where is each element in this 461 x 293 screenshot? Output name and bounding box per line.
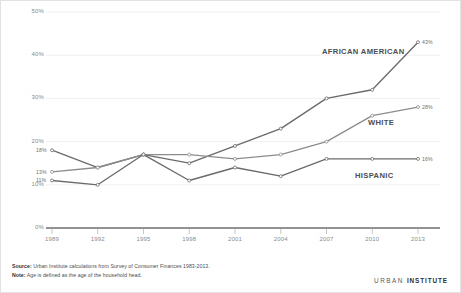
x-axis-tick-label: 1995 xyxy=(127,236,161,242)
data-point-marker xyxy=(279,127,282,130)
data-point-marker xyxy=(325,140,328,143)
x-axis-tick-label: 1989 xyxy=(35,236,69,242)
x-axis-tick-label: 2013 xyxy=(401,236,435,242)
data-point-marker xyxy=(371,114,374,117)
data-point-marker xyxy=(371,157,374,160)
source-text: Urban Institute calculations from Survey… xyxy=(32,263,210,269)
logo-urban-text: URBAN xyxy=(374,277,404,284)
series-start-value-label: 11% xyxy=(36,177,46,183)
data-point-marker xyxy=(325,157,328,160)
x-axis-tick-label: 2010 xyxy=(355,236,389,242)
data-point-marker xyxy=(188,162,191,165)
data-point-marker xyxy=(279,175,282,178)
y-axis-tick-label: 0% xyxy=(22,224,44,230)
data-point-marker xyxy=(325,97,328,100)
series-label-white: WHITE xyxy=(368,118,394,127)
note-label: Note: xyxy=(12,272,26,278)
series-end-value-label: 43% xyxy=(422,39,433,45)
chart-container: 0%10%20%30%40%50% 1989199219951998200120… xyxy=(0,0,461,293)
source-line: Source: Urban Institute calculations fro… xyxy=(12,262,342,271)
data-point-marker xyxy=(188,179,191,182)
x-axis-tick-label: 2007 xyxy=(310,236,344,242)
data-point-marker xyxy=(51,179,54,182)
y-axis-tick-label: 50% xyxy=(22,8,44,14)
data-point-marker xyxy=(417,106,420,109)
series-start-value-label: 18% xyxy=(36,147,47,153)
data-point-marker xyxy=(371,88,374,91)
x-axis-tick-label: 1998 xyxy=(172,236,206,242)
data-point-marker xyxy=(142,153,145,156)
data-point-marker xyxy=(96,183,99,186)
y-axis-tick-label: 20% xyxy=(22,138,44,144)
data-point-marker xyxy=(96,166,99,169)
x-axis-tick-label: 2001 xyxy=(218,236,252,242)
series-lines-group xyxy=(51,41,420,187)
x-axis-tick-label: 1992 xyxy=(81,236,115,242)
note-text: Age is defined as the age of the househo… xyxy=(26,272,142,278)
urban-institute-logo: URBAN INSTITUTE xyxy=(374,277,448,284)
x-axis-group xyxy=(52,229,418,234)
y-axis-tick-label: 40% xyxy=(22,51,44,57)
data-point-marker xyxy=(417,41,420,44)
series-line xyxy=(52,42,418,167)
data-point-marker xyxy=(234,166,237,169)
note-line: Note: Age is defined as the age of the h… xyxy=(12,271,342,280)
data-point-marker xyxy=(51,149,54,152)
data-point-marker xyxy=(188,153,191,156)
series-end-value-label: 16% xyxy=(422,156,433,162)
series-line xyxy=(52,107,418,172)
series-label-hispanic: HISPANIC xyxy=(355,171,394,180)
source-label: Source: xyxy=(12,263,32,269)
logo-institute-text: INSTITUTE xyxy=(407,277,448,284)
data-point-marker xyxy=(234,144,237,147)
x-axis-tick-label: 2004 xyxy=(264,236,298,242)
series-label-african-american: AFRICAN AMERICAN xyxy=(322,47,405,56)
data-point-marker xyxy=(279,153,282,156)
data-point-marker xyxy=(234,157,237,160)
footnotes: Source: Urban Institute calculations fro… xyxy=(12,262,342,280)
chart-plot-area xyxy=(0,0,461,293)
series-end-value-label: 28% xyxy=(422,104,433,110)
data-point-marker xyxy=(417,157,420,160)
series-start-value-label: 13% xyxy=(36,169,47,175)
y-axis-tick-label: 30% xyxy=(22,94,44,100)
data-point-marker xyxy=(51,170,54,173)
